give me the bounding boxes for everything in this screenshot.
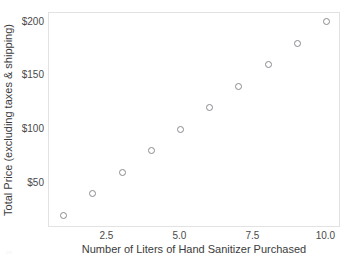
data-point	[177, 126, 184, 133]
data-point	[323, 18, 330, 25]
data-point	[206, 104, 213, 111]
data-point	[148, 147, 155, 154]
data-point	[119, 169, 126, 176]
y-axis-tick-labels: $50$100$150$200	[0, 12, 44, 227]
scatter-plot-figure: Total Price (excluding taxes & shipping)…	[0, 0, 356, 263]
data-point	[235, 83, 242, 90]
data-point	[60, 212, 67, 219]
plot-area	[48, 12, 340, 227]
corner-artifact: ▫▫	[6, 248, 22, 257]
data-point	[265, 61, 272, 68]
x-axis-tick-label: 7.5	[245, 230, 259, 241]
y-axis-tick-label: $100	[22, 123, 44, 134]
x-axis-tick-label: 10.0	[316, 230, 335, 241]
y-axis-tick-label: $150	[22, 69, 44, 80]
x-axis-tick-label: 2.5	[99, 230, 113, 241]
data-points-layer	[49, 13, 339, 226]
y-axis-tick-label: $50	[27, 176, 44, 187]
x-axis-tick-label: 5.0	[172, 230, 186, 241]
y-axis-tick-label: $200	[22, 15, 44, 26]
x-axis-title: Number of Liters of Hand Sanitizer Purch…	[48, 243, 340, 255]
data-point	[294, 40, 301, 47]
data-point	[89, 190, 96, 197]
x-axis-tick-labels: 2.55.07.510.0	[48, 230, 340, 243]
